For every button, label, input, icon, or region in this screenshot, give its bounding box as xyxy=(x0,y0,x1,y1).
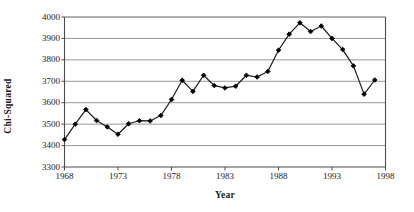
x-tick-label: 1968 xyxy=(45,172,85,181)
axis-lines xyxy=(65,17,386,167)
x-tick-label: 1978 xyxy=(152,172,192,181)
x-tick-label: 1988 xyxy=(259,172,299,181)
x-axis-title: Year xyxy=(64,190,386,200)
x-tick-label: 1993 xyxy=(312,172,352,181)
data-point-marker xyxy=(137,118,142,123)
x-tick-label: 1998 xyxy=(366,172,406,181)
axis-tickmarks xyxy=(62,17,386,171)
chart-container: Chi-Squared 4000390038003700360035003400… xyxy=(0,0,414,212)
gridlines xyxy=(65,17,386,146)
data-point-marker xyxy=(223,86,228,91)
x-tick-label: 1973 xyxy=(98,172,138,181)
data-point-marker xyxy=(266,69,271,74)
data-point-marker xyxy=(148,119,153,124)
data-point-marker xyxy=(255,75,260,80)
x-tick-label: 1983 xyxy=(205,172,245,181)
